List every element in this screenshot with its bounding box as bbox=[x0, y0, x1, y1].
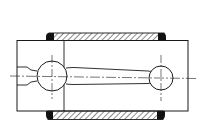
technical-drawing bbox=[0, 0, 204, 135]
bottom-clamp-band bbox=[46, 111, 165, 120]
top-clamp-band bbox=[46, 33, 166, 41]
drawing-svg bbox=[0, 0, 204, 135]
bottom-left-fill bbox=[46, 111, 53, 120]
rod-shank-top bbox=[66, 68, 154, 74]
top-right-fill bbox=[158, 33, 166, 41]
left-neck-bottom bbox=[17, 81, 37, 85]
bottom-right-fill bbox=[157, 111, 165, 120]
top-left-fill bbox=[46, 33, 54, 41]
rod-shank-bottom bbox=[66, 82, 154, 85]
left-neck-top bbox=[17, 67, 37, 71]
